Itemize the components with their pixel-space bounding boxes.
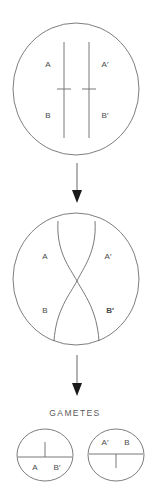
label-top-B-prime: B′ (102, 111, 109, 120)
chromatid-a-to-b-prime (58, 221, 99, 341)
arrow-top-head-icon (72, 190, 82, 203)
stage-paired-chromosomes: A A′ B B′ (13, 23, 139, 155)
gamete-right-label-B: B (124, 438, 129, 447)
label-top-A-prime: A′ (102, 60, 109, 69)
meiosis-crossing-over-figure: A A′ B B′ A A′ B B′ GAMETES (0, 0, 151, 484)
stage-crossing-over: A A′ B B′ (13, 213, 139, 345)
gametes-heading: GAMETES (49, 408, 100, 418)
gamete-left: A B′ (17, 429, 73, 481)
arrow-bottom-head-icon (72, 383, 82, 396)
label-mid-B: B (42, 306, 47, 315)
crossing-over-diagram: A A′ B B′ A A′ B B′ GAMETES (0, 0, 151, 484)
chromatid-a-prime-to-b (54, 221, 95, 341)
cell-outline-top (13, 23, 139, 155)
arrow-bottom (72, 355, 82, 396)
label-mid-B-prime: B′ (106, 306, 114, 315)
arrow-top (72, 163, 82, 203)
gamete-left-label-B-prime: B′ (54, 463, 61, 472)
gamete-right: A′ B (88, 429, 144, 481)
gamete-right-label-A-prime: A′ (102, 438, 109, 447)
label-mid-A: A (42, 252, 48, 261)
gamete-left-label-A: A (32, 463, 38, 472)
stage-gametes: GAMETES A B′ A′ B (17, 408, 144, 481)
label-top-A: A (45, 60, 51, 69)
label-mid-A-prime: A′ (105, 252, 112, 261)
label-top-B: B (45, 111, 50, 120)
